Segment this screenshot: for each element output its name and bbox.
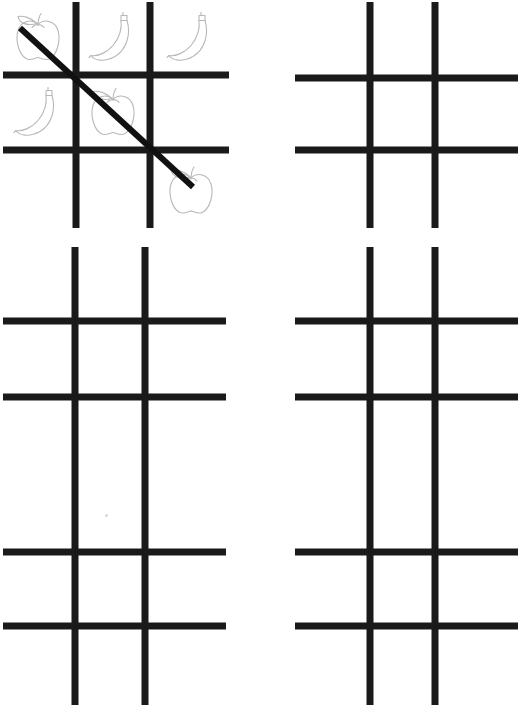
grid-vline-1 bbox=[367, 476, 374, 705]
board-top-left-canvas bbox=[0, 0, 232, 232]
grid-hline-2 bbox=[3, 394, 226, 401]
banana-icon bbox=[167, 13, 207, 61]
board-middle-right[interactable] bbox=[292, 245, 521, 480]
apple-icon bbox=[17, 14, 59, 60]
board-middle-right-canvas bbox=[292, 245, 521, 480]
grid-vline-2 bbox=[432, 2, 439, 228]
banana-icon bbox=[14, 88, 54, 136]
grid-hline-2 bbox=[3, 147, 229, 154]
cell-mark-middle-left[interactable] bbox=[14, 88, 54, 136]
board-bottom-left-canvas bbox=[0, 474, 229, 709]
grid-hline-1 bbox=[295, 318, 518, 325]
grid-vline-1 bbox=[72, 247, 79, 476]
grid-hline-1 bbox=[3, 318, 226, 325]
grid-vline-1 bbox=[367, 247, 374, 476]
board-bottom-left[interactable] bbox=[0, 474, 229, 709]
banana-icon bbox=[89, 13, 129, 61]
grid-vline-2 bbox=[142, 247, 149, 476]
grid-hline-2 bbox=[295, 394, 518, 401]
grid-hline-2 bbox=[295, 623, 518, 630]
cell-mark-top-left[interactable] bbox=[17, 14, 59, 60]
grid-hline-1 bbox=[3, 549, 226, 556]
cell-mark-top-right[interactable] bbox=[167, 13, 207, 61]
grid-vline-2 bbox=[432, 476, 439, 705]
board-middle-left-canvas bbox=[0, 245, 229, 480]
worksheet-page bbox=[0, 0, 521, 709]
board-bottom-right[interactable] bbox=[292, 474, 521, 709]
grid-vline-1 bbox=[367, 2, 374, 228]
grid-vline-2 bbox=[142, 476, 149, 705]
grid-hline-1 bbox=[3, 72, 229, 79]
board-top-left[interactable] bbox=[0, 0, 232, 232]
grid-hline-2 bbox=[3, 623, 226, 630]
grid-vline-1 bbox=[72, 476, 79, 705]
board-top-right[interactable] bbox=[292, 0, 521, 232]
stray-dot bbox=[105, 514, 108, 517]
board-middle-left[interactable] bbox=[0, 245, 229, 480]
board-bottom-right-canvas bbox=[292, 474, 521, 709]
grid-hline-1 bbox=[295, 549, 518, 556]
grid-vline-2 bbox=[432, 247, 439, 476]
grid-hline-1 bbox=[295, 75, 518, 82]
board-top-right-canvas bbox=[292, 0, 521, 232]
cell-mark-top-center[interactable] bbox=[89, 13, 129, 61]
grid-hline-2 bbox=[295, 147, 518, 154]
grid-vline-1 bbox=[73, 2, 80, 228]
grid-vline-2 bbox=[147, 2, 154, 228]
